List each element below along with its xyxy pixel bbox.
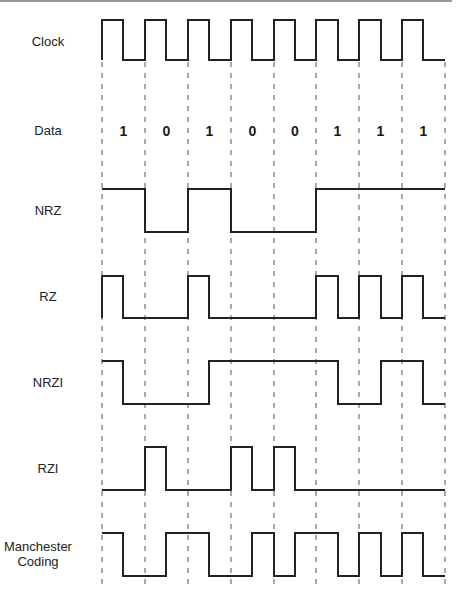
timing-diagram: 1 0 1 0 0 1 1 1 bbox=[0, 0, 461, 594]
data-bit: 0 bbox=[249, 123, 257, 139]
data-bit: 0 bbox=[291, 123, 299, 139]
data-bit: 1 bbox=[334, 123, 342, 139]
grid-lines bbox=[102, 62, 445, 588]
data-bit: 0 bbox=[163, 123, 171, 139]
data-bit: 1 bbox=[206, 123, 214, 139]
manchester-waveform bbox=[102, 533, 445, 576]
rzi-waveform bbox=[102, 447, 445, 490]
data-bit: 1 bbox=[120, 123, 128, 139]
clock-waveform bbox=[102, 20, 445, 60]
data-bit: 1 bbox=[377, 123, 385, 139]
data-bit: 1 bbox=[420, 123, 428, 139]
